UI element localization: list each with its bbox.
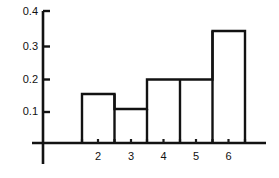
chart-canvas: 0.4 0.3 0.2 0.1 2 3 4 5 6 [0,0,279,178]
x-tick-label-3: 3 [128,150,134,162]
x-tick-label-4: 4 [160,150,166,162]
x-tick-label-2: 2 [95,150,101,162]
histogram-chart: 0.4 0.3 0.2 0.1 2 3 4 5 6 [0,0,279,178]
y-tick-label-0.2: 0.2 [23,73,38,85]
x-tick-label-5: 5 [193,150,199,162]
histogram-bars-outline [82,31,245,143]
y-tick-label-0.3: 0.3 [23,40,38,52]
y-tick-label-0.4: 0.4 [23,5,38,17]
x-tick-label-6: 6 [225,150,231,162]
y-tick-label-0.1: 0.1 [23,105,38,117]
